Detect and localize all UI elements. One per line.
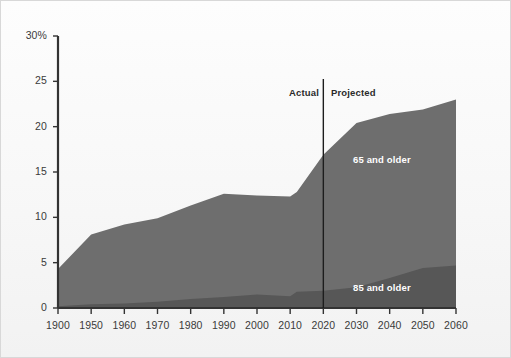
y-axis-label-5: 5 xyxy=(41,256,47,268)
y-axis-label-30: 30% xyxy=(26,29,47,41)
actual-label: Actual xyxy=(289,87,319,98)
stacked-areas xyxy=(58,99,456,308)
series-label-85-and-older: 85 and older xyxy=(353,282,411,293)
chart-figure: 051015202530%190019501960197019801990200… xyxy=(0,0,511,358)
y-axis-label-0: 0 xyxy=(41,301,47,313)
series-label-65-and-older: 65 and older xyxy=(353,154,411,165)
y-axis-label-25: 25 xyxy=(35,74,47,86)
y-axis-label-10: 10 xyxy=(35,210,47,222)
y-axis-label-15: 15 xyxy=(35,165,47,177)
x-axis-label-2060: 2060 xyxy=(434,319,478,331)
y-axis-label-20: 20 xyxy=(35,120,47,132)
projected-label: Projected xyxy=(331,87,376,98)
area-chart-plot xyxy=(1,1,511,358)
